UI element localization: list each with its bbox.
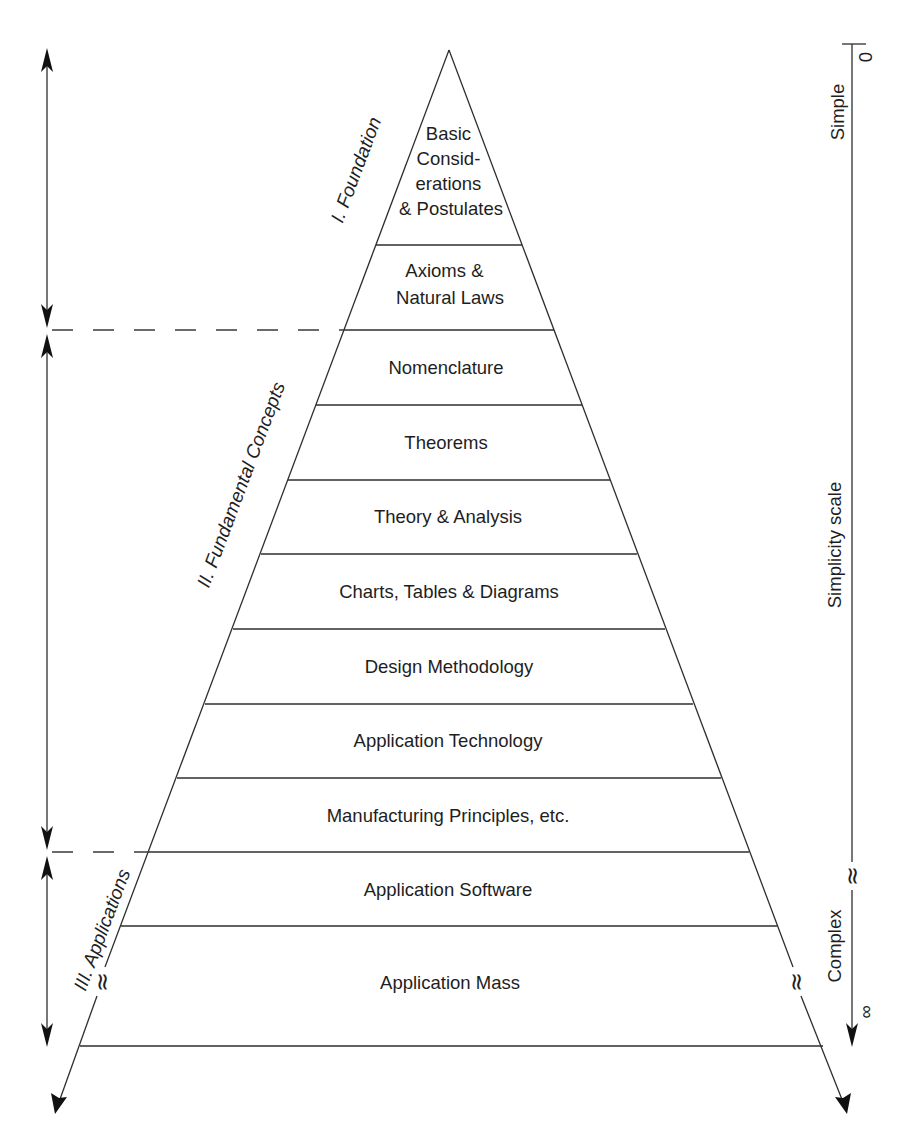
level-application-software: Application Software bbox=[364, 879, 533, 900]
level-axioms: Axioms & Natural Laws bbox=[396, 260, 504, 308]
group-range-arrows bbox=[41, 48, 53, 1047]
scale-start-label: Simple bbox=[827, 84, 848, 141]
pyramid-level-labels: Basic Consid- erations & Postulates Axio… bbox=[327, 123, 570, 993]
level-nomenclature: Nomenclature bbox=[388, 357, 503, 378]
simplicity-scale: ≈ 0 Simple Simplicity scale Complex ∞ bbox=[824, 44, 876, 1047]
scale-start-value: 0 bbox=[855, 52, 876, 62]
group-label-fundamental-concepts: II. Fundamental Concepts bbox=[193, 379, 289, 591]
level-theorems: Theorems bbox=[404, 432, 487, 453]
scale-title: Simplicity scale bbox=[824, 482, 845, 608]
scale-end-label: Complex bbox=[824, 909, 845, 983]
level-charts-tables-diagrams: Charts, Tables & Diagrams bbox=[339, 581, 559, 602]
level-application-technology: Application Technology bbox=[354, 730, 544, 751]
level-manufacturing-principles: Manufacturing Principles, etc. bbox=[327, 805, 570, 826]
level-theory-analysis: Theory & Analysis bbox=[374, 506, 522, 527]
pyramid-right-edge-lower bbox=[801, 996, 843, 1102]
pyramid-left-edge-lower bbox=[59, 996, 97, 1102]
level-design-methodology: Design Methodology bbox=[365, 656, 534, 677]
level-application-mass: Application Mass bbox=[380, 972, 520, 993]
left-edge-arrowhead-icon bbox=[51, 1093, 67, 1114]
simplicity-pyramid-diagram: ≈ ≈ Basic Consid- erations & Postulates … bbox=[0, 0, 906, 1137]
scale-end-value: ∞ bbox=[855, 1005, 876, 1018]
right-edge-arrowhead-icon bbox=[835, 1093, 851, 1114]
scale-break-icon: ≈ bbox=[838, 866, 866, 886]
level-basic-considerations: Basic Consid- erations & Postulates bbox=[399, 123, 503, 219]
right-edge-break-icon: ≈ bbox=[782, 972, 810, 992]
group-label-foundation: I. Foundation bbox=[327, 114, 386, 225]
